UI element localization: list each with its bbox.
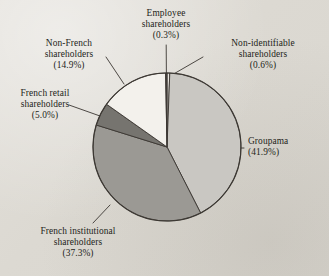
label-groupama: Groupama (41.9%) [248,136,328,158]
label-french-institutional-shareholders: French institutional shareholders (37.3%… [16,226,140,260]
label-french-institutional-pct: (37.3%) [16,248,140,259]
label-employee-pct: (0.3%) [116,30,216,41]
label-groupama-pct: (41.9%) [248,147,328,158]
label-non-identifiable-pct: (0.6%) [205,60,321,71]
pie-slices [93,73,241,221]
label-non-identifiable-line2: shareholders [205,49,321,60]
leader-line-french-institutional [93,205,110,223]
label-non-french-line2: shareholders [16,49,122,60]
label-non-french-shareholders: Non-French shareholders (14.9%) [16,38,122,72]
label-non-french-pct: (14.9%) [16,60,122,71]
label-employee-line1: Employee [116,8,216,19]
label-french-institutional-line2: shareholders [16,237,140,248]
label-non-identifiable-shareholders: Non-identifiable shareholders (0.6%) [205,38,321,72]
leader-line-non-identifiable [171,57,203,76]
label-french-institutional-line1: French institutional [16,226,140,237]
label-employee-shareholders: Employee shareholders (0.3%) [116,8,216,42]
label-non-identifiable-line1: Non-identifiable [205,38,321,49]
label-french-retail-shareholders: French retail shareholders (5.0%) [0,88,92,122]
label-french-retail-line2: shareholders [0,99,92,110]
label-french-retail-pct: (5.0%) [0,110,92,121]
label-groupama-line1: Groupama [248,136,328,147]
label-french-retail-line1: French retail [0,88,92,99]
label-employee-line2: shareholders [116,19,216,30]
label-non-french-line1: Non-French [16,38,122,49]
